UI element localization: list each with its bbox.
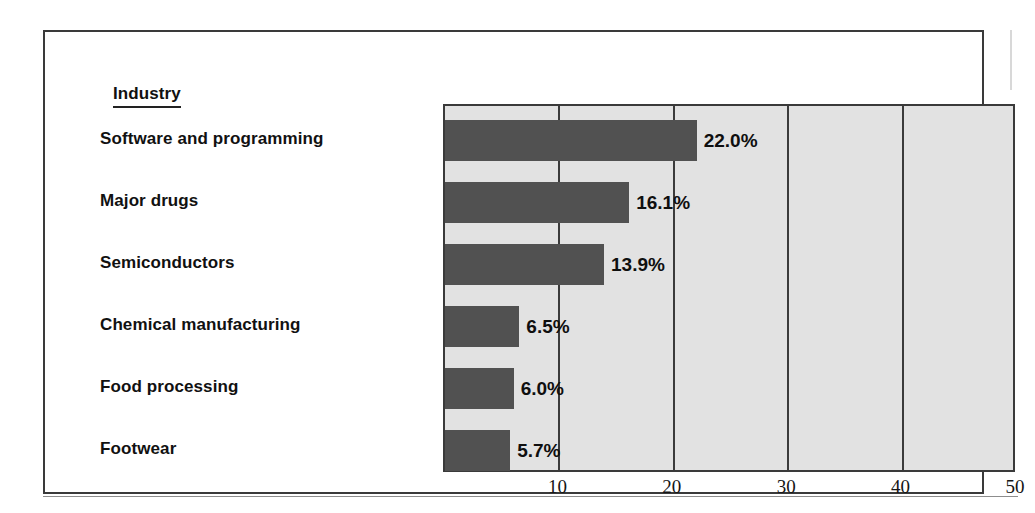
- x-tick-label: 10: [548, 476, 567, 498]
- x-tick-label: 20: [662, 476, 681, 498]
- category-label: Food processing: [100, 377, 427, 397]
- bar-value-label: 6.5%: [519, 306, 569, 347]
- bar-value-label: 6.0%: [514, 368, 564, 409]
- bar: [445, 430, 510, 471]
- x-tick-label: 50: [1006, 476, 1025, 498]
- bar-value-label: 5.7%: [510, 430, 560, 471]
- x-axis-tick-labels: 1020304050: [443, 476, 1015, 506]
- bar: [445, 120, 697, 161]
- figure-frame: Industry Software and programmingMajor d…: [43, 30, 984, 494]
- page-edge-artifact: [1010, 30, 1012, 90]
- bar-value-label: 22.0%: [697, 120, 758, 161]
- category-label: Chemical manufacturing: [100, 315, 427, 335]
- x-tick-label: 40: [891, 476, 910, 498]
- bar: [445, 306, 519, 347]
- category-label: Semiconductors: [100, 253, 427, 273]
- category-label: Software and programming: [100, 129, 427, 149]
- gridline-30: [787, 106, 789, 470]
- bar-value-label: 13.9%: [604, 244, 665, 285]
- category-label: Footwear: [100, 439, 427, 459]
- gridline-40: [902, 106, 904, 470]
- bar-value-label: 16.1%: [629, 182, 690, 223]
- plot-area: 22.0%16.1%13.9%6.5%6.0%5.7%: [443, 104, 1015, 472]
- category-label-column: Software and programmingMajor drugsSemic…: [45, 104, 435, 472]
- category-label: Major drugs: [100, 191, 427, 211]
- x-tick-label: 30: [777, 476, 796, 498]
- bar: [445, 244, 604, 285]
- bar: [445, 368, 514, 409]
- bar: [445, 182, 629, 223]
